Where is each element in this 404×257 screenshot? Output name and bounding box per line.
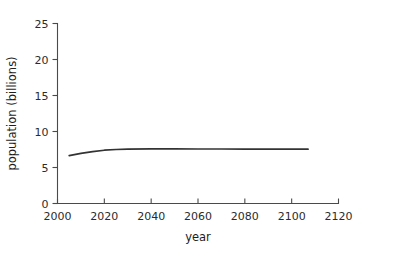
population-series-line (69, 149, 308, 156)
population-line-chart: 2000202020402060208021002120 0510152025 … (0, 0, 404, 257)
x-tick-label: 2060 (184, 210, 212, 223)
x-tick-label: 2040 (137, 210, 165, 223)
y-tick-label: 0 (42, 198, 49, 211)
x-tick-labels-group: 2000202020402060208021002120 (44, 210, 353, 223)
tick-marks-group (53, 24, 339, 204)
y-tick-label: 25 (35, 18, 49, 31)
y-tick-label: 10 (35, 126, 49, 139)
y-tick-label: 20 (35, 54, 49, 67)
y-tick-labels-group: 0510152025 (35, 18, 49, 211)
x-tick-label: 2120 (325, 210, 353, 223)
x-tick-label: 2000 (44, 210, 72, 223)
y-axis-title: population (billions) (5, 56, 19, 170)
x-axis-title: year (185, 230, 211, 244)
x-tick-label: 2020 (90, 210, 118, 223)
y-tick-label: 5 (42, 162, 49, 175)
y-tick-label: 15 (35, 90, 49, 103)
x-tick-label: 2100 (278, 210, 306, 223)
chart-container: 2000202020402060208021002120 0510152025 … (0, 0, 404, 257)
x-tick-label: 2080 (231, 210, 259, 223)
